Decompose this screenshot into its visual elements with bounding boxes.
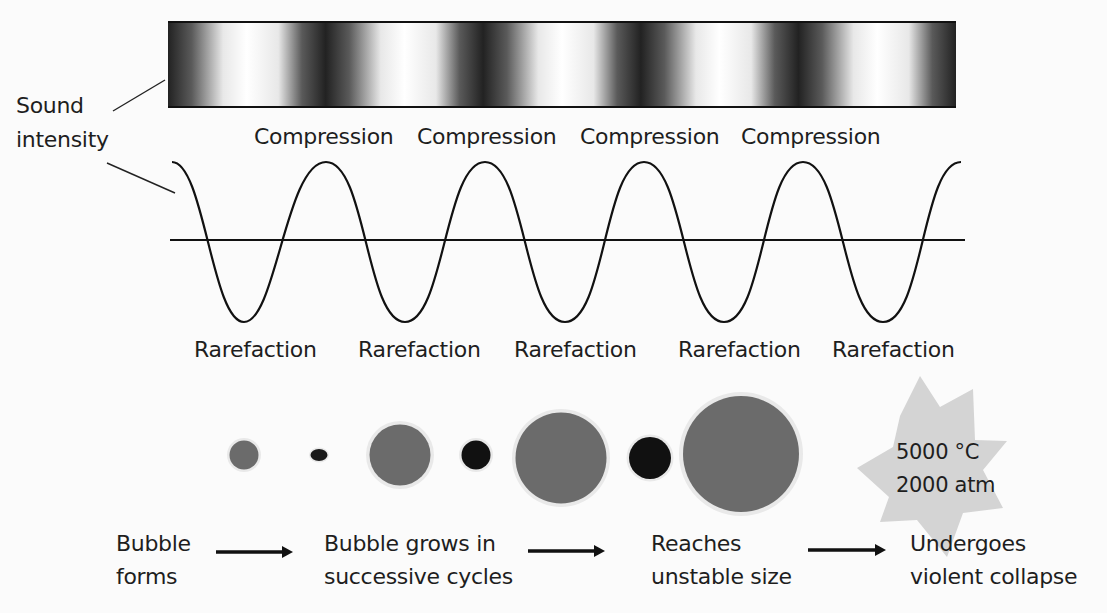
stage-1-caption-line1: Bubble bbox=[116, 533, 191, 555]
diagram-graphics bbox=[0, 0, 1107, 613]
bubbles bbox=[227, 392, 803, 516]
pressure-wave bbox=[172, 162, 961, 322]
collapse-star-icon bbox=[857, 376, 1007, 557]
stage-arrows bbox=[216, 544, 886, 558]
rarefaction-label-1: Rarefaction bbox=[194, 339, 317, 361]
compression-label-3: Compression bbox=[580, 126, 719, 148]
leader-line-band bbox=[113, 80, 165, 111]
stage-3-caption-line2: unstable size bbox=[651, 566, 792, 588]
stage-2-caption-line2: successive cycles bbox=[324, 566, 513, 588]
stage-1-caption-line2: forms bbox=[116, 566, 177, 588]
sound-intensity-label-line2: intensity bbox=[16, 129, 109, 151]
compression-label-4: Compression bbox=[741, 126, 880, 148]
stage-4-caption-line1: Undergoes bbox=[910, 533, 1026, 555]
rarefaction-label-4: Rarefaction bbox=[678, 339, 801, 361]
sound-intensity-label-line1: Sound bbox=[16, 95, 84, 117]
compression-label-2: Compression bbox=[417, 126, 556, 148]
leader-line-wave bbox=[107, 163, 175, 193]
rarefaction-label-5: Rarefaction bbox=[832, 339, 955, 361]
stage-2-caption-line1: Bubble grows in bbox=[324, 533, 496, 555]
rarefaction-label-3: Rarefaction bbox=[514, 339, 637, 361]
compression-label-1: Compression bbox=[254, 126, 393, 148]
stage-3-caption-line1: Reaches bbox=[651, 533, 741, 555]
collapse-pressure: 2000 atm bbox=[896, 475, 995, 496]
stage-4-caption-line2: violent collapse bbox=[910, 566, 1077, 588]
collapse-temperature: 5000 °C bbox=[896, 442, 979, 463]
rarefaction-label-2: Rarefaction bbox=[358, 339, 481, 361]
